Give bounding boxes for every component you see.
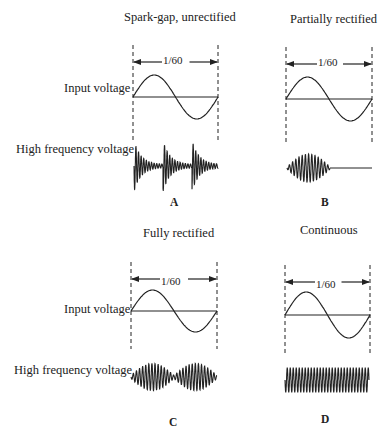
panel-d-period-label: 1/60 [315,278,337,290]
panel-c-period-label: 1/60 [160,275,182,287]
panel-b-hf-burst [287,154,330,182]
panel-a-hf-waveform [134,144,218,191]
panel-c-hf-waveform [131,364,217,391]
panel-a-period-label: 1/60 [162,54,184,66]
panel-b-period-label: 1/60 [317,56,339,68]
panel-d-hf-waveform [285,368,369,392]
